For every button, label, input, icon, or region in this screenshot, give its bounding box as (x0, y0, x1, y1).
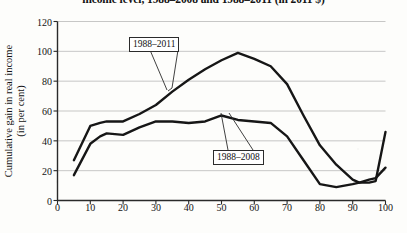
x-axis-tick-label: 0 (47, 202, 69, 213)
x-axis-tick-label: 60 (243, 202, 265, 213)
chart-figure: income level, 1988–2008 and 1988–2011 (i… (0, 0, 407, 233)
x-axis-tick-label: 70 (276, 202, 298, 213)
x-axis-tick-label: 80 (309, 202, 331, 213)
callout-leader-lines (150, 50, 253, 150)
series-label-1988-2011: 1988–2011 (129, 37, 179, 52)
x-axis-tick-label: 90 (342, 202, 364, 213)
leader-line-2008-b (229, 113, 253, 150)
x-axis-tick-label: 40 (178, 202, 200, 213)
series-label-1988-2008: 1988–2008 (213, 150, 264, 165)
plot-area (0, 0, 407, 233)
x-axis-tick-label: 50 (211, 202, 233, 213)
leader-line-2011-a (150, 50, 167, 90)
x-axis-tick-label: 10 (79, 202, 101, 213)
data-series-layer (74, 53, 386, 187)
leader-line-2011-b (168, 50, 178, 91)
x-axis-tick-label: 20 (112, 202, 134, 213)
gridlines (58, 22, 386, 171)
leader-line-2008-a (221, 113, 228, 150)
x-axis-tick-label: 30 (145, 202, 167, 213)
x-axis-tick-label: 100 (375, 202, 397, 213)
